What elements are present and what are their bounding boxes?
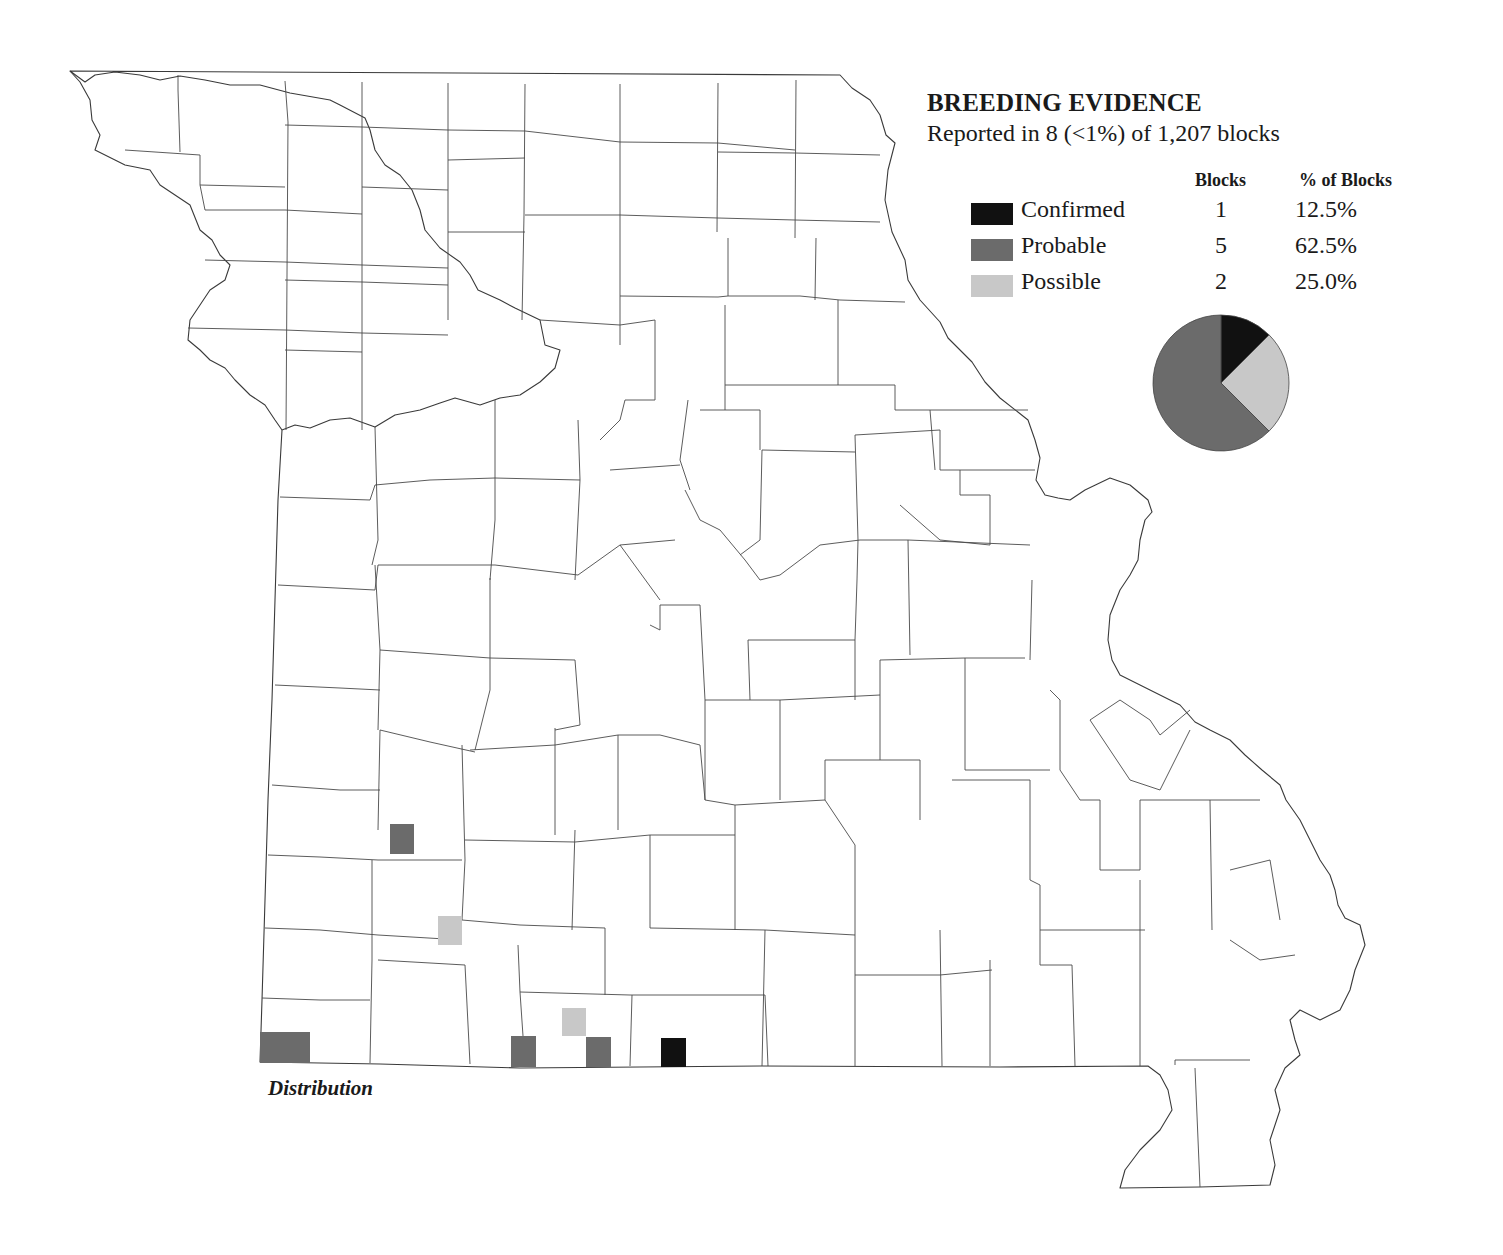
block-marker-confirmed (661, 1038, 686, 1067)
legend-percent: 62.5% (1271, 232, 1381, 259)
map-caption: Distribution (268, 1076, 373, 1101)
probable-swatch-icon (971, 239, 1013, 261)
legend-percent: 25.0% (1271, 268, 1381, 295)
legend-block-count: 1 (1201, 196, 1241, 223)
block-marker-possible (438, 916, 462, 945)
legend-row-confirmed: Confirmed 1 12.5% (971, 196, 1427, 226)
legend-percent: 12.5% (1271, 196, 1381, 223)
missouri-county-map (0, 0, 1503, 1255)
column-header-percent: % of Blocks (1299, 170, 1392, 191)
block-marker-probable (511, 1036, 536, 1067)
block-marker-probable (586, 1037, 611, 1067)
breeding-evidence-pie-chart (1150, 312, 1292, 454)
legend-row-probable: Probable 5 62.5% (971, 232, 1427, 262)
legend-block-count: 5 (1201, 232, 1241, 259)
block-marker-probable (390, 824, 414, 854)
confirmed-swatch-icon (971, 203, 1013, 225)
nw-river-border (70, 71, 282, 430)
column-header-blocks: Blocks (1195, 170, 1246, 191)
legend-row-possible: Possible 2 25.0% (971, 268, 1427, 298)
breeding-evidence-legend: BREEDING EVIDENCE Reported in 8 (<1%) of… (927, 88, 1427, 148)
legend-label: Possible (1021, 268, 1101, 295)
block-marker-possible (562, 1008, 586, 1036)
legend-subtitle: Reported in 8 (<1%) of 1,207 blocks (927, 118, 1427, 148)
legend-label: Confirmed (1021, 196, 1125, 223)
possible-swatch-icon (971, 275, 1013, 297)
block-marker-probable (260, 1032, 310, 1063)
legend-label: Probable (1021, 232, 1106, 259)
legend-title: BREEDING EVIDENCE (927, 88, 1427, 118)
legend-block-count: 2 (1201, 268, 1241, 295)
